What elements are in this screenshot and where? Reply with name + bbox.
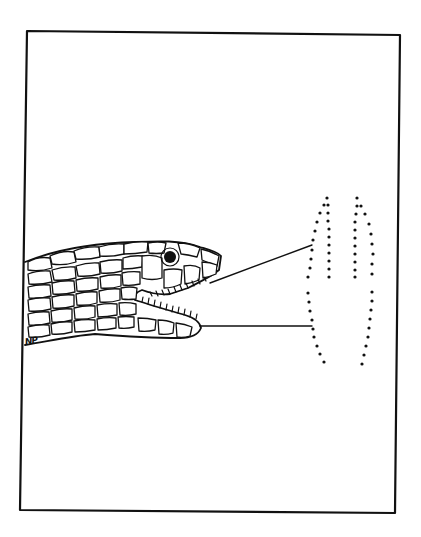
figure-canvas [0, 0, 421, 537]
right-dotted-outline [353, 196, 374, 365]
body-scales [28, 242, 148, 338]
snake-eye-icon [164, 251, 176, 263]
snake-head-illustration [25, 241, 221, 345]
left-dotted-outline [306, 196, 330, 363]
upper-jaw-callout-line [210, 245, 312, 283]
artist-signature: NP [24, 335, 38, 347]
